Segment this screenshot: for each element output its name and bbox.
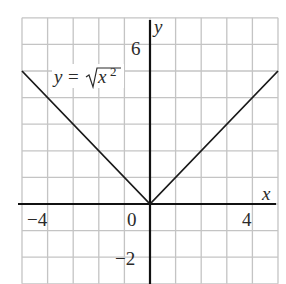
equation-equals: =: [68, 66, 79, 87]
equation-exponent: 2: [110, 64, 117, 79]
equation-x: x: [97, 66, 107, 87]
y-axis-label: y: [152, 16, 163, 37]
x-tick-0: 0: [127, 209, 137, 230]
equation-y: y: [52, 66, 63, 87]
x-tick-neg4: −4: [27, 209, 48, 230]
y-tick-neg2: −2: [115, 248, 135, 269]
x-axis-label: x: [261, 183, 271, 204]
x-tick-4: 4: [242, 209, 252, 230]
y-tick-6: 6: [131, 38, 141, 59]
graph-figure: x y −4 0 4 6 −2 y = x 2: [0, 0, 286, 284]
equation-label: y = x 2: [52, 64, 124, 88]
